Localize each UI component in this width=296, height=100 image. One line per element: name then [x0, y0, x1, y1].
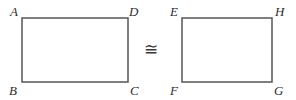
rectangle-efgh-outline: [182, 18, 272, 82]
geometry-diagram-canvas: A D B C ≅ E H F G: [0, 0, 296, 100]
vertex-label-a: A: [10, 5, 18, 18]
vertex-label-e: E: [170, 5, 178, 18]
vertex-label-b: B: [9, 84, 17, 97]
vertex-label-f: F: [170, 84, 178, 97]
vertex-label-d: D: [129, 5, 138, 18]
rectangle-abcd-outline: [22, 18, 128, 82]
vertex-label-h: H: [275, 5, 284, 18]
vertex-label-g: G: [274, 84, 283, 97]
congruent-to-symbol: ≅: [144, 41, 158, 58]
vertex-label-c: C: [130, 84, 139, 97]
